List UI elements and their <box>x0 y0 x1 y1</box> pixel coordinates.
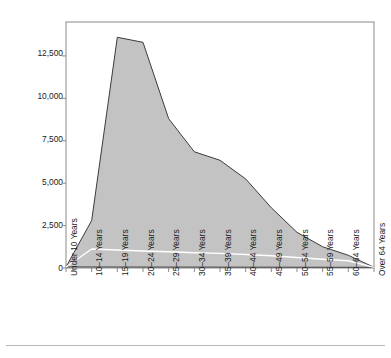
plot-area <box>0 0 391 358</box>
x-tick-label: Over 64 Years <box>378 223 387 276</box>
x-tick-label: 25–29 Years <box>172 229 181 276</box>
x-tick-label: 35–39 Years <box>224 229 233 276</box>
x-tick-label: 55–59 Years <box>326 229 335 276</box>
x-tick-label: 60–64 Years <box>352 229 361 276</box>
x-tick-label: 45–49 Years <box>275 229 284 276</box>
x-tick-label: 20–24 Years <box>147 229 156 276</box>
x-tick-label: 50–54 Years <box>301 229 310 276</box>
footer-divider <box>6 345 385 346</box>
x-tick-label: 15–19 Years <box>121 229 130 276</box>
chart-figure: Part I and II Arrest Rates per 100,000 P… <box>0 0 391 358</box>
y-axis-ticks <box>62 56 66 268</box>
x-tick-label: 40–44 Years <box>249 229 258 276</box>
x-tick-label: Under 10 Years <box>70 218 79 276</box>
x-tick-label: 10–14 Years <box>95 229 104 276</box>
x-tick-label: 30–34 Years <box>198 229 207 276</box>
